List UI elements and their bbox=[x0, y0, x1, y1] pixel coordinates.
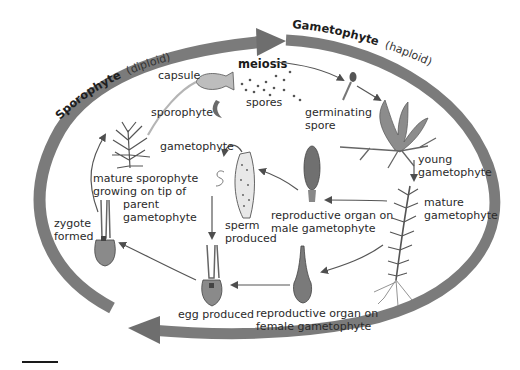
sporophyte-label: sporophyte bbox=[151, 106, 213, 119]
egg-produced-label: egg produced bbox=[178, 308, 254, 321]
male-organ-label-1: reproductive organ on bbox=[271, 209, 393, 222]
female-organ-label-1: reproductive organ on bbox=[256, 307, 378, 320]
female-organ-label-2: female gametophyte bbox=[256, 320, 371, 333]
mature-gametophyte-label-2: gametophyte bbox=[424, 209, 498, 222]
germinating-spore-label-2: spore bbox=[305, 119, 336, 132]
young-gametophyte-label-2: gametophyte bbox=[418, 166, 492, 179]
germinating-spore-label-1: germinating bbox=[305, 106, 372, 119]
gametophyte-arrowhead-icon bbox=[128, 316, 160, 344]
mature-sporophyte-label-1: mature sporophyte bbox=[93, 172, 199, 185]
sporophyte-arrowhead-icon bbox=[256, 28, 286, 56]
capsule-lid-icon bbox=[213, 100, 222, 118]
mature-sporophyte-label-2: growing on tip of bbox=[93, 185, 187, 198]
sperm-produced-label-2: produced bbox=[225, 232, 277, 245]
sperm-producing-organ-illustration bbox=[235, 152, 255, 218]
male-organ-label-2: male gametophyte bbox=[271, 222, 376, 235]
zygote-formed-label-1: zygote bbox=[54, 217, 91, 230]
mature-gametophyte-label-1: mature bbox=[424, 196, 464, 209]
young-gametophyte-label-1: young bbox=[418, 153, 452, 166]
egg-organ-illustration bbox=[202, 245, 222, 306]
meiosis-label: meiosis bbox=[238, 57, 287, 71]
arrow-mature-to-female-organ bbox=[322, 245, 383, 272]
spores-label: spores bbox=[246, 96, 282, 109]
scale-bar bbox=[22, 361, 58, 363]
mature-sporophyte-label-4: gametophyte bbox=[123, 211, 197, 224]
arrow-germinating-to-young bbox=[357, 86, 380, 100]
mature-sporophyte-illustration bbox=[112, 122, 150, 168]
male-reproductive-organ-illustration bbox=[304, 146, 320, 202]
arrow-egg-to-zygote bbox=[120, 243, 196, 280]
moss-life-cycle-diagram: Sporophyte (diploid) Gametophyte (haploi… bbox=[0, 0, 520, 370]
mature-sporophyte-label-3: parent bbox=[123, 198, 160, 211]
sperm-produced-label-1: sperm bbox=[225, 219, 260, 232]
zygote-formed-label-2: formed bbox=[54, 230, 93, 243]
capsule-label: capsule bbox=[158, 69, 201, 82]
germinating-spore-illustration bbox=[343, 72, 357, 100]
arrow-mature-to-male-organ bbox=[326, 200, 387, 201]
arrow-male-organ-to-sperm-organ bbox=[260, 170, 298, 190]
sperm-cell-icon bbox=[216, 171, 224, 186]
gametophyte-label: gametophyte bbox=[160, 140, 234, 153]
female-reproductive-organ-illustration bbox=[293, 246, 311, 303]
